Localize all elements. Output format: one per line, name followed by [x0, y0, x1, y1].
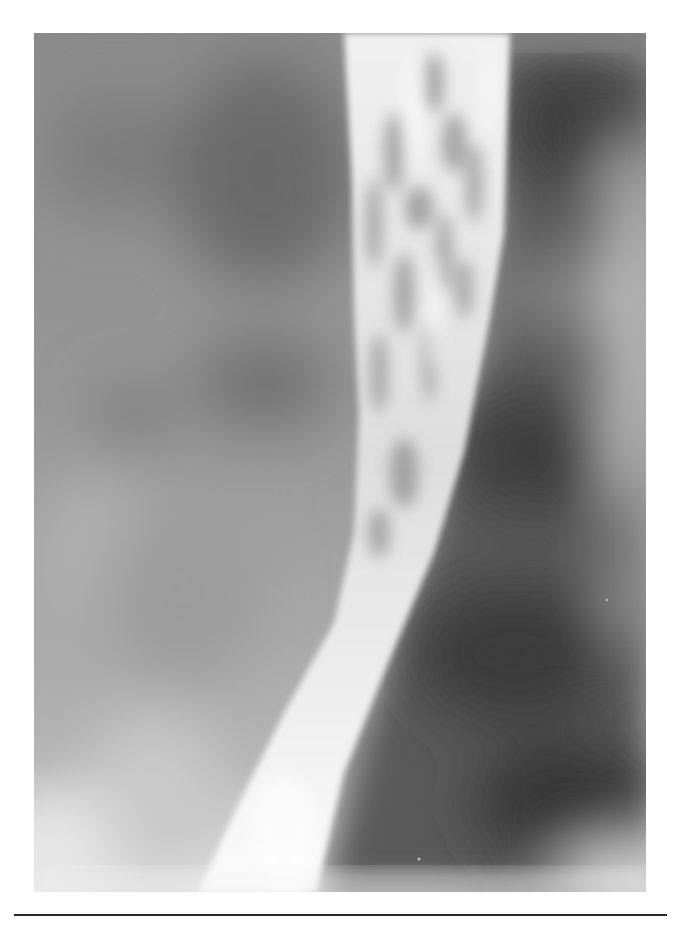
- radiograph-image: [34, 33, 646, 892]
- horizontal-rule: [14, 914, 667, 916]
- esophagram-svg: [34, 33, 646, 892]
